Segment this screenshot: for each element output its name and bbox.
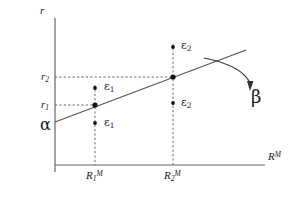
x-axis-label-superscript: M — [275, 150, 281, 159]
y-tick-subscript-r2: 2 — [45, 75, 49, 84]
observation-dot-eps1-upper — [93, 86, 97, 90]
x-tick-label-R2M: R2M — [164, 170, 181, 183]
fitted-point-R1M — [92, 102, 97, 107]
observation-dot-eps2-lower — [171, 101, 175, 105]
intercept-label-alpha: α — [40, 117, 51, 133]
x-tick-base-R1M: R — [86, 169, 93, 181]
residual-label-eps2-upper: ε2 — [181, 40, 191, 53]
residual-label-eps2-lower: ε2 — [181, 97, 191, 110]
x-tick-superscript-R1M: M — [96, 169, 102, 178]
residual-subscript-eps2-lower: 2 — [187, 101, 192, 110]
x-axis-label-base: R — [268, 150, 275, 162]
slope-label-beta: β — [251, 88, 261, 106]
residual-subscript-eps1-lower: 1 — [110, 121, 115, 130]
regression-diagram: r RM r2 r1 R1M R2M α β ε1 ε1 ε2 ε2 — [0, 0, 302, 199]
y-tick-label-r2: r2 — [41, 71, 49, 84]
residual-subscript-eps2-upper: 2 — [187, 44, 192, 53]
beta-callout-arrow — [204, 58, 250, 83]
residual-subscript-eps1-upper: 1 — [110, 85, 115, 94]
x-tick-base-R2M: R — [164, 169, 171, 181]
fitted-point-R2M — [170, 74, 175, 79]
x-tick-label-R1M: R1M — [86, 170, 103, 183]
residual-label-eps1-upper: ε1 — [104, 81, 114, 94]
y-tick-label-r1: r1 — [41, 99, 49, 112]
residual-label-eps1-lower: ε1 — [104, 117, 114, 130]
x-axis-label: RM — [268, 151, 281, 162]
y-axis-label-text: r — [40, 4, 44, 16]
x-tick-superscript-R2M: M — [174, 169, 180, 178]
y-tick-subscript-r1: 1 — [45, 103, 49, 112]
y-axis-label: r — [40, 5, 44, 16]
observation-dot-eps1-lower — [93, 121, 97, 125]
observation-dot-eps2-upper — [171, 45, 175, 49]
